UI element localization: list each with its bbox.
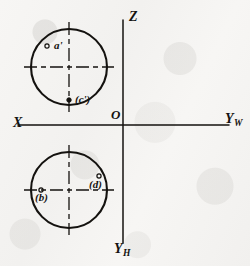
top-view-group [24, 145, 114, 235]
point-label-c-prime: (c') [75, 94, 90, 105]
axis-label-yw: YW [225, 112, 242, 128]
axis-label-x: X [13, 116, 22, 130]
point-marker-a-prime [45, 44, 49, 48]
point-marker-c-prime [67, 98, 71, 102]
origin-label: O [111, 108, 120, 121]
front-view-group [24, 22, 114, 112]
axis-label-yh-subscript: H [123, 248, 130, 258]
point-label-a-prime: a' [54, 40, 63, 51]
axes-group [18, 20, 229, 243]
technical-drawing-canvas [0, 0, 250, 266]
point-label-b: (b) [35, 192, 48, 203]
axis-label-yw-subscript: W [234, 118, 242, 128]
point-label-d: (d) [89, 179, 102, 190]
drawing-sheet: X Z YW YH O a' (c') (b) (d) [0, 0, 250, 266]
axis-label-z: Z [129, 10, 138, 24]
axis-label-yw-text: Y [225, 111, 234, 126]
axis-label-yh-text: Y [114, 241, 123, 256]
axis-label-yh: YH [114, 242, 130, 258]
